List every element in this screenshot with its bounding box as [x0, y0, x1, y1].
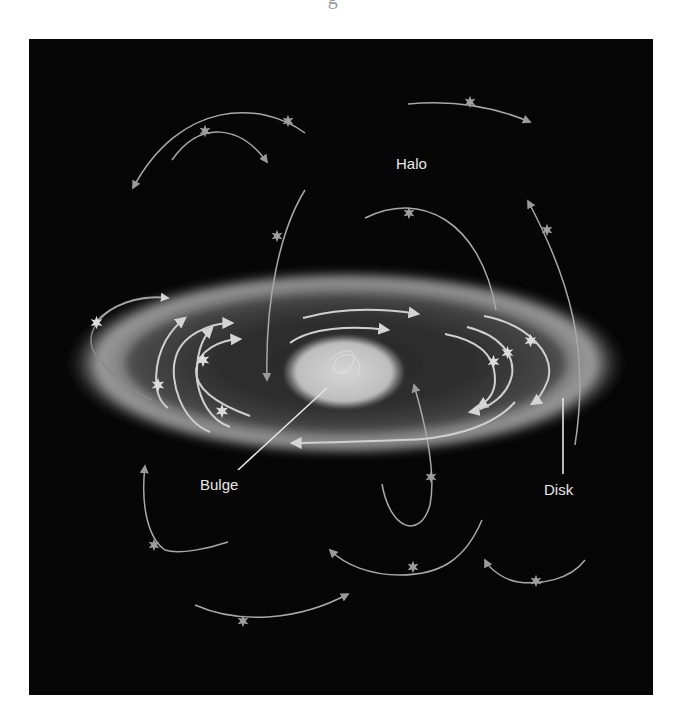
galactic-bulge — [284, 335, 404, 409]
disk-label: Disk — [544, 481, 573, 498]
halo-label: Halo — [396, 155, 427, 172]
bulge-label: Bulge — [200, 476, 238, 493]
galaxy-diagram — [0, 0, 680, 720]
star-icon — [408, 561, 419, 574]
star-icon — [426, 471, 437, 484]
star-icon — [531, 575, 542, 588]
star-icon — [149, 539, 160, 552]
star-icon — [272, 230, 283, 243]
